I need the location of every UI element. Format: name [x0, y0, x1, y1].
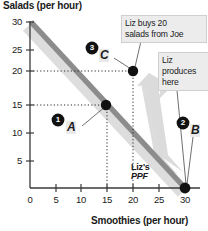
ppf-chart: Salads (per hour) Smoothies (per hour) 3…	[0, 0, 208, 231]
y-tick-label-30: 30	[2, 17, 22, 27]
y-tick-label-5: 5	[2, 156, 22, 166]
ppf-label-line2: PPF	[131, 172, 150, 181]
x-tick-label-20: 20	[125, 195, 141, 205]
leader-buy	[135, 41, 141, 67]
callout-liz-buys: Liz buys 20 salads from Joe	[121, 15, 207, 43]
x-axis-title: Smoothies (per hour)	[91, 216, 188, 227]
callout-liz-buys-line2: salads from Joe	[125, 29, 203, 40]
y-axis-title: Salads (per hour)	[3, 1, 82, 12]
badge-1-label: 1	[52, 114, 64, 126]
badge-3-label: 3	[86, 42, 98, 54]
point-b-marker	[180, 183, 191, 194]
leader-c	[114, 58, 131, 69]
callout-liz-produces-line2: produces	[162, 66, 206, 77]
x-tick-label-25: 25	[151, 195, 167, 205]
y-tick-label-25: 25	[2, 45, 22, 55]
point-a-label: A	[66, 121, 76, 134]
x-tick-label-10: 10	[73, 195, 89, 205]
callout-liz-produces-line3: here	[162, 77, 206, 88]
y-tick-label-10: 10	[2, 128, 22, 138]
point-c-marker	[128, 66, 138, 76]
x-tick-label-15: 15	[99, 195, 115, 205]
leader-a	[82, 106, 106, 126]
callout-liz-buys-line1: Liz buys 20	[125, 18, 203, 29]
leader-produce	[176, 80, 186, 184]
point-c-label: C	[99, 49, 109, 62]
ppf-curve-label: Liz's PPF	[131, 163, 150, 182]
x-tick-label-0: 0	[22, 195, 38, 205]
callout-liz-produces: Liz produces here	[158, 52, 208, 91]
y-tick-label-15: 15	[2, 100, 22, 110]
x-tick-label-5: 5	[48, 195, 64, 205]
callout-liz-produces-line1: Liz	[162, 55, 206, 66]
point-b-label: B	[190, 124, 200, 137]
x-tick-label-30: 30	[177, 195, 193, 205]
point-a-marker	[101, 100, 111, 110]
badge-2-label: 2	[177, 117, 189, 129]
y-tick-label-20: 20	[2, 66, 22, 76]
leader-b	[187, 137, 193, 184]
